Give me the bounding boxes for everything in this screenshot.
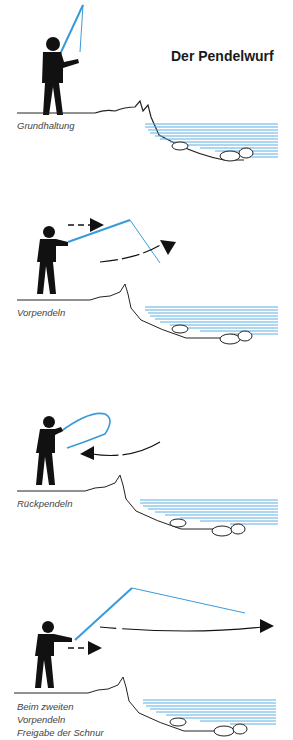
- fisher-scene-2: [0, 180, 293, 360]
- panel-freigabe: Beim zweiten Vorpendeln Freigabe der Sch…: [0, 540, 293, 740]
- caption-line-3: Freigabe der Schnur: [17, 726, 104, 739]
- caption-rueckpendeln: Rückpendeln: [17, 497, 72, 510]
- panel-vorpendeln: Vorpendeln: [0, 180, 293, 360]
- fisher-scene-1: [0, 0, 293, 180]
- caption-line-2: Vorpendeln: [17, 713, 104, 726]
- caption-grundhaltung: Grundhaltung: [17, 119, 75, 132]
- fisher-scene-3: [0, 360, 293, 540]
- panel-rueckpendeln: Rückpendeln: [0, 360, 293, 540]
- caption-line-1: Beim zweiten: [17, 700, 104, 713]
- panel-grundhaltung: Grundhaltung: [0, 0, 293, 180]
- caption-vorpendeln: Vorpendeln: [17, 306, 65, 319]
- caption-freigabe: Beim zweiten Vorpendeln Freigabe der Sch…: [17, 700, 104, 739]
